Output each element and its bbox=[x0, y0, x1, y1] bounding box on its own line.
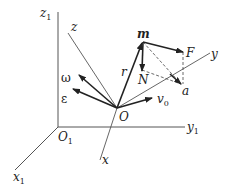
omega-vector bbox=[79, 75, 117, 108]
y-label: y bbox=[210, 47, 218, 61]
omega-label: ω bbox=[61, 71, 71, 85]
a-vector bbox=[170, 74, 181, 84]
F-label: F bbox=[185, 46, 195, 60]
diagram-canvas: z1 z ω ε m r F N a y v0 O y1 O1 x x1 bbox=[0, 0, 229, 191]
epsilon-label: ε bbox=[61, 92, 67, 106]
F-vector bbox=[143, 42, 183, 52]
a-label: a bbox=[182, 84, 189, 98]
N-label: N bbox=[137, 73, 149, 87]
v0-label: v0 bbox=[157, 92, 169, 108]
x-label: x bbox=[102, 153, 109, 167]
x1-label: x1 bbox=[13, 170, 25, 186]
fixed-frame-axes bbox=[15, 12, 185, 170]
r-label: r bbox=[121, 65, 128, 79]
y1-label: y1 bbox=[186, 120, 199, 136]
m-label: m bbox=[137, 27, 150, 41]
kinematics-diagram: z1 z ω ε m r F N a y v0 O y1 O1 x x1 bbox=[0, 0, 229, 191]
z-label: z bbox=[70, 20, 78, 34]
O-label: O bbox=[119, 110, 129, 124]
N-vector bbox=[142, 42, 143, 71]
z1-label: z1 bbox=[39, 6, 51, 22]
v0-vector bbox=[117, 98, 152, 108]
O1-label: O1 bbox=[58, 130, 73, 146]
x1-axis bbox=[15, 127, 58, 170]
